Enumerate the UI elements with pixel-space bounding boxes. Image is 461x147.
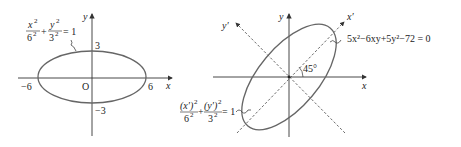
eqr-x-den: 6	[184, 113, 189, 124]
eqr-rhs: = 1	[222, 106, 235, 117]
eq-y-exp: 2	[56, 17, 60, 25]
tick-neg-y: −3	[95, 105, 106, 116]
y-axis-label-right: y	[278, 11, 284, 22]
origin-label: O	[82, 81, 89, 92]
y-axis-label: y	[82, 11, 88, 22]
eq-plus: +	[41, 26, 47, 37]
x-prime-label: x′	[346, 11, 354, 22]
tick-pos-y: 3	[95, 40, 100, 51]
x-axis-label-right: x	[361, 80, 367, 91]
eqr-x-den-exp: 2	[190, 111, 194, 119]
eqr-y-den-exp: 2	[214, 111, 218, 119]
left-figure: y x 3 −3 6 −6 O x 2 6 2 + y 2 3 2 = 1	[18, 11, 172, 136]
origin-point	[288, 76, 291, 79]
eq-x-num: x	[27, 19, 33, 30]
eqr-y-den: 3	[208, 113, 213, 124]
eq-y-den: 3	[49, 32, 54, 43]
eq-x-den: 6	[27, 32, 32, 43]
leader-squiggle-bottom	[236, 110, 251, 113]
angle-label: 45°	[303, 63, 317, 74]
eq-rhs: = 1	[63, 26, 76, 37]
eqr-x-exp: 2	[194, 98, 198, 106]
equation-rotated: (x′) 2 6 2 + (y′) 2 3 2 = 1	[180, 98, 235, 124]
eq-x-den-exp: 2	[33, 30, 37, 38]
eqr-y-exp: 2	[218, 98, 222, 106]
eq-x-exp: 2	[34, 17, 38, 25]
tick-neg-x: −6	[21, 81, 32, 92]
x-axis-label: x	[165, 80, 171, 91]
diagram-canvas: y x 3 −3 6 −6 O x 2 6 2 + y 2 3 2 = 1	[0, 0, 461, 147]
eq-y-den-exp: 2	[55, 30, 59, 38]
leader-squiggle	[71, 40, 76, 51]
right-figure: y x x′ y′ 45° 5x²−6xy+5y²−72 = 0 (x′) 2 …	[180, 9, 431, 146]
eq-y-num: y	[49, 19, 55, 30]
tick-pos-x: 6	[148, 81, 153, 92]
equation-standard: x 2 6 2 + y 2 3 2 = 1	[26, 17, 76, 43]
equation-original: 5x²−6xy+5y²−72 = 0	[347, 33, 431, 44]
y-prime-label: y′	[221, 20, 229, 31]
